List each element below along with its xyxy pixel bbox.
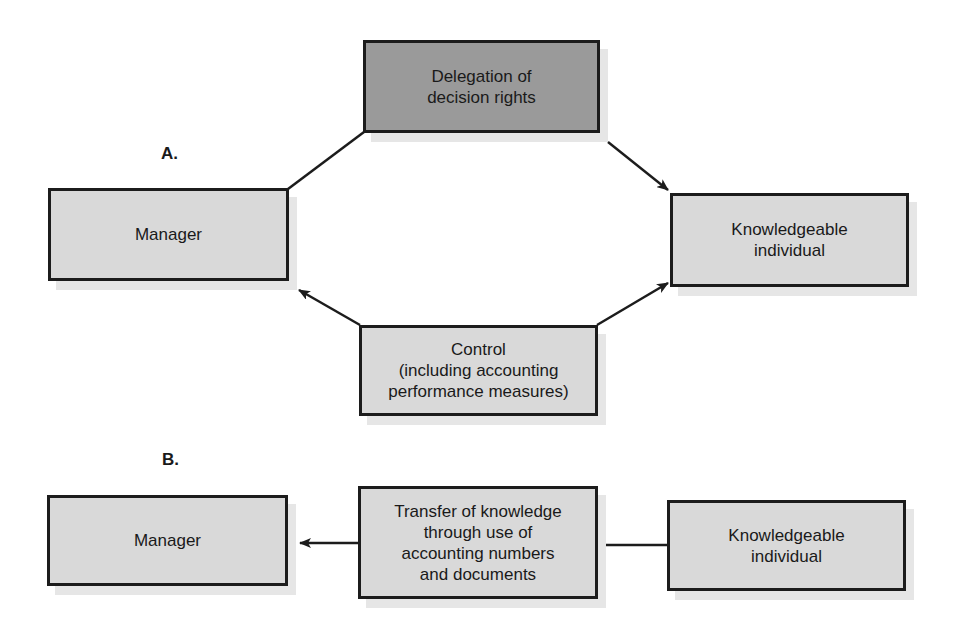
knowledgeable-box-b: Knowledgeable individual <box>667 500 906 591</box>
manager-box-b: Manager <box>47 495 288 586</box>
arrow-control-to-manager <box>299 290 360 325</box>
section-b-label: B. <box>162 450 179 470</box>
transfer-box: Transfer of knowledge through use of acc… <box>358 486 598 599</box>
arrow-control-to-knowledgeable <box>597 283 668 325</box>
knowledgeable-box-a: Knowledgeable individual <box>670 193 909 287</box>
line-manager-to-delegation <box>288 132 364 189</box>
arrow-delegation-to-knowledgeable <box>608 142 668 190</box>
section-a-label: A. <box>161 144 178 164</box>
control-box: Control (including accounting performanc… <box>359 325 598 416</box>
delegation-box: Delegation of decision rights <box>363 40 600 133</box>
manager-box-a: Manager <box>48 188 289 281</box>
